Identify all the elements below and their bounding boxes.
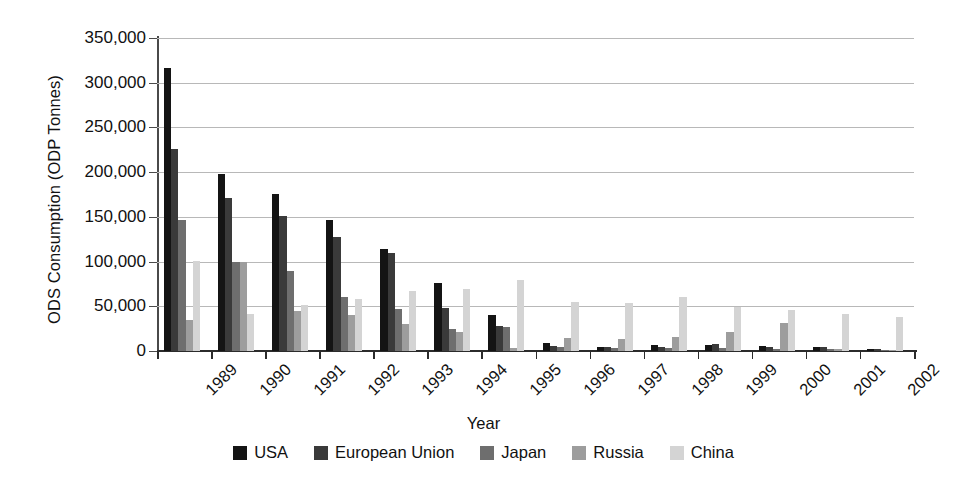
- bar-russia-1997: [618, 339, 625, 351]
- bar-group-1995: [488, 38, 524, 351]
- y-axis-tick-label: 0: [0, 341, 146, 361]
- bar-japan-2001: [827, 349, 834, 351]
- x-axis-tick: [860, 351, 862, 359]
- bar-russia-1999: [726, 332, 733, 351]
- x-axis-label-1997: 1997: [634, 360, 673, 399]
- y-axis-tick-label: 350,000: [0, 28, 146, 48]
- bar-group-1990: [218, 38, 254, 351]
- bar-group-1996: [543, 38, 579, 351]
- bar-usa-1989: [164, 68, 171, 351]
- bar-russia-2002: [889, 350, 896, 352]
- x-axis-label-1993: 1993: [418, 360, 457, 399]
- x-axis-label-2002: 2002: [904, 360, 943, 399]
- bar-european-union-2000: [766, 347, 773, 351]
- bar-usa-1994: [434, 283, 441, 351]
- x-axis-label-1991: 1991: [309, 360, 348, 399]
- legend-item-european-union[interactable]: European Union: [314, 443, 454, 462]
- bar-european-union-1991: [279, 216, 286, 351]
- bar-japan-1992: [341, 297, 348, 351]
- bar-usa-1990: [218, 174, 225, 351]
- bar-japan-1995: [503, 327, 510, 351]
- bar-china-1992: [355, 299, 362, 351]
- bar-group-1999: [705, 38, 741, 351]
- bar-china-2000: [788, 310, 795, 351]
- bar-european-union-1990: [225, 198, 232, 351]
- bar-group-2000: [759, 38, 795, 351]
- bar-japan-2000: [773, 349, 780, 351]
- legend-label: Russia: [593, 443, 643, 462]
- bar-japan-1990: [232, 262, 239, 351]
- bar-china-1991: [301, 305, 308, 351]
- bar-china-1998: [679, 297, 686, 351]
- bar-russia-1992: [348, 315, 355, 351]
- x-axis-tick: [427, 351, 429, 359]
- bar-group-2002: [867, 38, 903, 351]
- bar-russia-1991: [294, 311, 301, 351]
- bar-european-union-1996: [550, 346, 557, 351]
- bar-china-2001: [842, 314, 849, 351]
- x-axis-title: Year: [0, 414, 967, 433]
- x-axis-label-1994: 1994: [472, 360, 511, 399]
- legend-swatch-icon: [670, 446, 684, 460]
- bar-usa-2001: [813, 347, 820, 351]
- legend-item-china[interactable]: China: [670, 443, 734, 462]
- bar-japan-1994: [449, 329, 456, 351]
- legend-item-japan[interactable]: Japan: [480, 443, 546, 462]
- bar-china-1999: [734, 307, 741, 351]
- bar-japan-2002: [881, 350, 888, 352]
- bar-russia-2001: [834, 349, 841, 351]
- bar-russia-1995: [510, 348, 517, 351]
- legend-item-russia[interactable]: Russia: [572, 443, 643, 462]
- chart-legend: USAEuropean UnionJapanRussiaChina: [0, 443, 967, 462]
- bar-group-1992: [326, 38, 362, 351]
- bar-group-2001: [813, 38, 849, 351]
- y-axis-tick-label: 200,000: [0, 162, 146, 182]
- x-axis-tick: [211, 351, 213, 359]
- y-axis-tick-label: 100,000: [0, 252, 146, 272]
- x-axis-label-1996: 1996: [580, 360, 619, 399]
- bar-japan-1999: [719, 348, 726, 351]
- bar-group-1998: [651, 38, 687, 351]
- bar-group-1997: [597, 38, 633, 351]
- bar-china-1997: [625, 303, 632, 351]
- gridline: [157, 262, 914, 263]
- bar-european-union-2001: [820, 347, 827, 351]
- x-axis-tick: [265, 351, 267, 359]
- bar-european-union-1995: [496, 326, 503, 351]
- bar-european-union-1999: [712, 344, 719, 351]
- x-axis-tick: [481, 351, 483, 359]
- bar-russia-1993: [402, 324, 409, 351]
- x-axis-tick: [698, 351, 700, 359]
- legend-label: Japan: [501, 443, 546, 462]
- bar-european-union-2002: [874, 349, 881, 351]
- bar-russia-1990: [240, 262, 247, 351]
- y-axis-tick-label: 150,000: [0, 207, 146, 227]
- bar-european-union-1994: [442, 308, 449, 351]
- bar-usa-1999: [705, 345, 712, 351]
- bar-european-union-1989: [171, 149, 178, 351]
- bar-usa-2002: [867, 349, 874, 351]
- x-axis-tick: [752, 351, 754, 359]
- bar-group-1991: [272, 38, 308, 351]
- legend-label: USA: [254, 443, 288, 462]
- legend-swatch-icon: [233, 446, 247, 460]
- x-axis-tick: [914, 351, 916, 359]
- x-axis-tick: [319, 351, 321, 359]
- gridline: [157, 38, 914, 39]
- bar-china-1994: [463, 289, 470, 351]
- bar-usa-1993: [380, 249, 387, 351]
- x-axis-label-1989: 1989: [201, 360, 240, 399]
- ods-consumption-bar-chart: ODS Consumption (ODP Tonnes) 350,000300,…: [0, 0, 967, 494]
- legend-item-usa[interactable]: USA: [233, 443, 288, 462]
- gridline: [157, 172, 914, 173]
- x-axis-tick: [590, 351, 592, 359]
- x-axis-label-1998: 1998: [688, 360, 727, 399]
- legend-swatch-icon: [572, 446, 586, 460]
- gridline: [157, 83, 914, 84]
- bar-russia-1996: [564, 338, 571, 351]
- x-axis-tick: [806, 351, 808, 359]
- bar-usa-1996: [543, 343, 550, 351]
- x-axis-label-2001: 2001: [850, 360, 889, 399]
- legend-label: China: [691, 443, 734, 462]
- bar-japan-1996: [557, 347, 564, 351]
